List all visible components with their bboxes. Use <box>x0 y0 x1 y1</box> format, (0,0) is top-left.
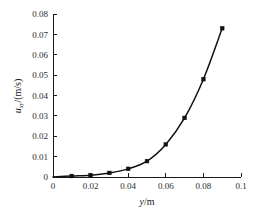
x-tick-label: 0.06 <box>158 181 174 191</box>
data-point-marker <box>70 174 74 178</box>
x-tick-label: 0.02 <box>83 181 99 191</box>
y-tick-label: 0.08 <box>32 9 48 19</box>
data-point-marker <box>183 116 187 120</box>
y-tick-label: 0 <box>44 172 49 182</box>
data-point-marker <box>126 167 130 171</box>
y-tick-label: 0.04 <box>32 91 48 101</box>
data-point-marker <box>145 159 149 163</box>
y-tick-label: 0.03 <box>32 111 48 121</box>
data-point-marker <box>108 171 112 175</box>
x-tick-label: 0 <box>51 181 56 191</box>
data-point-marker <box>202 77 206 81</box>
data-point-marker <box>89 173 93 177</box>
x-axis-title: y/m <box>138 196 154 207</box>
x-tick-label: 0.1 <box>235 181 246 191</box>
y-tick-label: 0.02 <box>32 131 48 141</box>
y-axis-tick-labels: 00.010.020.030.040.050.060.070.08 <box>32 9 48 182</box>
y-tick-label: 0.05 <box>32 70 48 80</box>
x-tick-label: 0.08 <box>196 181 212 191</box>
data-point-marker <box>164 143 168 147</box>
y-tick-label: 0.06 <box>32 50 48 60</box>
chart-figure: 00.020.040.060.080.1 00.010.020.030.040.… <box>0 0 262 212</box>
line-chart: 00.020.040.060.080.1 00.010.020.030.040.… <box>0 0 262 212</box>
y-tick-label: 0.07 <box>32 30 48 40</box>
data-point-marker <box>220 26 224 30</box>
x-tick-label: 0.04 <box>120 181 136 191</box>
y-tick-label: 0.01 <box>32 152 48 162</box>
